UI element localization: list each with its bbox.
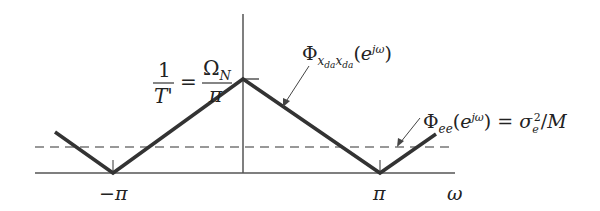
level-lhs-denominator: T' [154,84,173,108]
signal-psd-label: Φxdaxda(ejω) [302,42,392,70]
level-rhs-denominator: π [209,83,222,107]
signal-psd-curve [55,79,436,173]
tick-label-pi: π [373,182,386,204]
diagram-graphics [0,0,600,211]
level-equals: = [180,70,197,94]
signal-arrow [285,66,309,103]
psd-diagram: 1 T' = ΩN π Φxdaxda(ejω) Φee(ejω) = σe2/… [0,0,600,211]
level-rhs-numerator: ΩN [203,56,231,83]
tick-label-neg-pi: −π [99,182,127,204]
signal-arrow-head [283,98,290,107]
noise-arrow [400,118,420,143]
x-axis-label: ω [447,182,463,204]
level-lhs-numerator: 1 [158,58,171,82]
noise-psd-label: Φee(ejω) = σe2/M [423,110,567,136]
